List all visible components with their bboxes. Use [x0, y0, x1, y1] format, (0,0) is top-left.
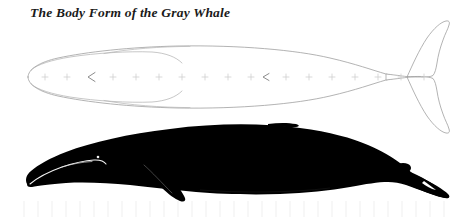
whale-illustration	[0, 0, 466, 224]
eye-dot	[97, 156, 100, 159]
whale-figure: The Body Form of the Gray Whale	[0, 0, 466, 224]
lateral-view	[26, 123, 449, 202]
dorsal-peduncle	[386, 74, 408, 80]
scale-ruler	[24, 201, 444, 217]
dorsal-fluke-lower	[407, 76, 449, 133]
dorsal-view	[28, 21, 449, 133]
lateral-body-silhouette	[26, 124, 449, 198]
dorsal-fluke-upper	[407, 21, 449, 78]
lateral-tail-flukes	[395, 170, 449, 198]
